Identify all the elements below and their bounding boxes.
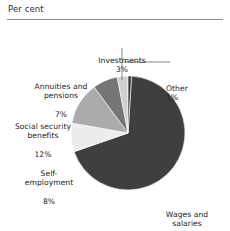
pie-label-investments-text: Investments: [98, 56, 146, 65]
pie-label-annuities-line2: pensions: [22, 91, 100, 101]
pie-chart: Investments 3% Other 1% Annuities and pe…: [0, 20, 230, 231]
pie-label-social-line1: Social security: [15, 122, 71, 131]
page-title: Per cent: [8, 4, 44, 14]
pie-label-self-employment: Self- employment 8%: [12, 159, 86, 217]
pie-label-other: Other 1%: [166, 74, 224, 112]
pie-label-self-line2: employment: [12, 178, 86, 188]
pie-label-wages-and-salaries: Wages and salaries 68%: [150, 200, 224, 231]
pie-label-self-line1: Self-: [41, 169, 58, 178]
pie-label-social-line2: benefits: [2, 131, 84, 141]
pie-label-self-percent: 8%: [12, 197, 86, 207]
pie-label-annuities-line1: Annuities and: [35, 82, 88, 91]
pie-label-other-percent: 1%: [166, 93, 224, 103]
pie-label-wages-line2: salaries: [150, 219, 224, 229]
pie-label-other-text: Other: [166, 84, 188, 93]
chart-page: Per cent Investments 3%: [0, 0, 230, 231]
pie-label-wages-line1: Wages and: [166, 210, 208, 219]
